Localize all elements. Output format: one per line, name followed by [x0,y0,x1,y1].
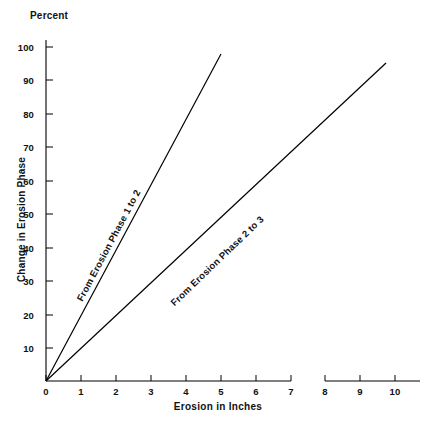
y-axis-ticks [46,47,53,348]
x-axis-ticks [46,375,395,381]
series-line-phase-2-to-3 [46,63,386,381]
erosion-phase-chart: Percent Change in Erosion Phase Erosion … [0,0,436,424]
series-line-phase-1-to-2 [46,54,221,381]
plot-area [0,0,436,424]
